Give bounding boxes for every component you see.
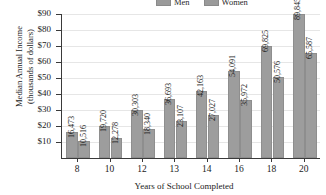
bar-women-16 <box>240 100 252 158</box>
bar-value-label: 18,340 <box>144 113 152 135</box>
bar-value-label: 36,693 <box>165 83 173 105</box>
plot-area: 16,47310,51619,72012,27830,30318,34036,6… <box>61 14 320 158</box>
x-axis-tick <box>77 158 78 162</box>
bar-women-18 <box>273 77 285 158</box>
bars-layer: 16,47310,51619,72012,27830,30318,34036,6… <box>62 14 321 158</box>
legend-entry-men: Men <box>156 0 190 6</box>
bar-value-label: 30,303 <box>132 94 140 116</box>
bar-value-label: 89,845 <box>294 0 302 20</box>
bar-value-label: 35,972 <box>241 85 249 107</box>
y-axis-tick-label: $30 <box>11 105 51 114</box>
y-axis-tick-label: $10 <box>11 137 51 146</box>
bar-value-label: 42,163 <box>197 75 205 97</box>
x-axis-tick <box>271 158 272 162</box>
y-axis-tick <box>56 110 61 111</box>
bar-value-label: 12,278 <box>112 122 120 144</box>
x-axis-tick <box>142 158 143 162</box>
x-axis-title: Years of School Completed <box>46 181 322 191</box>
y-axis-tick-label: $60 <box>11 57 51 66</box>
y-axis-tick <box>56 14 61 15</box>
bar-women-14 <box>208 115 220 158</box>
bar-chart: Men Women Median Annual Income (thousand… <box>0 0 326 195</box>
y-axis-tick <box>56 126 61 127</box>
legend-label-women: Women <box>222 0 248 6</box>
bar-value-label: 27,027 <box>209 99 217 121</box>
y-axis-tick <box>56 62 61 63</box>
y-axis-tick-label: $50 <box>11 73 51 82</box>
bar-value-label: 54,091 <box>229 56 237 78</box>
y-axis-tick <box>56 30 61 31</box>
y-axis-tick-label: $20 <box>11 121 51 130</box>
bar-men-12 <box>131 110 143 158</box>
bar-value-label: 16,473 <box>68 116 76 138</box>
bar-women-20 <box>305 53 317 158</box>
x-axis-tick <box>174 158 175 162</box>
bar-men-13 <box>164 99 176 158</box>
x-axis-tick <box>304 158 305 162</box>
bar-value-label: 19,720 <box>100 111 108 133</box>
bar-men-20 <box>293 14 305 158</box>
chart-legend: Men Women <box>156 0 248 7</box>
y-axis-tick <box>56 78 61 79</box>
x-axis-tick <box>207 158 208 162</box>
bar-value-label: 23,107 <box>177 105 185 127</box>
y-axis-tick-label: $90 <box>11 9 51 18</box>
y-axis-tick-label: $80 <box>11 25 51 34</box>
x-axis-tick-label: 20 <box>284 164 324 174</box>
bar-value-label: 69,825 <box>262 30 270 52</box>
legend-swatch-women <box>204 0 219 6</box>
y-axis-tick-label: $70 <box>11 41 51 50</box>
legend-swatch-men <box>156 0 171 6</box>
bar-men-14 <box>196 91 208 158</box>
y-axis-tick <box>56 46 61 47</box>
y-axis-tick <box>56 142 61 143</box>
x-axis-tick <box>110 158 111 162</box>
legend-entry-women: Women <box>204 0 248 6</box>
bar-value-label: 10,516 <box>80 125 88 147</box>
y-axis-tick-label: $40 <box>11 89 51 98</box>
y-axis-tick <box>56 94 61 95</box>
legend-label-men: Men <box>174 0 190 6</box>
x-axis-tick <box>239 158 240 162</box>
bar-value-label: 50,576 <box>274 61 282 83</box>
bar-men-16 <box>228 71 240 158</box>
bar-value-label: 65,587 <box>306 37 314 59</box>
x-axis-line <box>61 158 320 159</box>
bar-men-18 <box>261 46 273 158</box>
